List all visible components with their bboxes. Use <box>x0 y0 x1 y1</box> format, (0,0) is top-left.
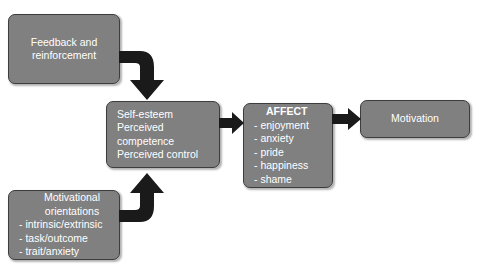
box-affect: AFFECT - enjoyment - anxiety - pride - h… <box>243 103 333 188</box>
arrow-feedback-to-self-esteem <box>119 47 179 103</box>
box-feedback-text: Feedback and reinforcement <box>3 36 125 63</box>
arrow-motivational-to-self-esteem <box>119 172 179 228</box>
box-affect-item-3: - pride <box>254 146 342 160</box>
box-affect-item-5: - shame <box>254 173 342 187</box>
box-motivational-orientations: Motivational orientations - intrinsic/ex… <box>8 190 120 260</box>
box-self-esteem-line-2: Perceived <box>117 121 229 135</box>
box-feedback-line-2: reinforcement <box>9 49 119 63</box>
box-self-esteem-line-3: competence <box>117 135 229 149</box>
box-feedback-line-1: Feedback and <box>9 36 119 50</box>
box-motivational-item-3: - trait/anxiety <box>17 245 127 259</box>
box-affect-text: AFFECT - enjoyment - anxiety - pride - h… <box>244 105 342 186</box>
arrow-self-esteem-to-affect <box>219 112 245 134</box>
box-affect-heading: AFFECT <box>254 105 342 119</box>
box-motivation: Motivation <box>360 100 470 138</box>
arrow-affect-to-motivation <box>332 108 362 130</box>
box-affect-item-4: - happiness <box>254 159 342 173</box>
box-motivational-text: Motivational orientations - intrinsic/ex… <box>9 191 135 259</box>
box-motivational-item-1: - intrinsic/extrinsic <box>17 218 127 232</box>
box-motivational-item-2: - task/outcome <box>17 232 127 246</box>
box-self-esteem: Self-esteem Perceived competence Perceiv… <box>106 101 220 168</box>
diagram-canvas: Feedback and reinforcement Motivational … <box>0 0 482 274</box>
box-self-esteem-text: Self-esteem Perceived competence Perceiv… <box>107 108 229 162</box>
box-motivation-text: Motivation <box>361 112 469 126</box>
box-motivational-heading-1: Motivational <box>17 191 127 205</box>
box-affect-item-2: - anxiety <box>254 132 342 146</box>
box-self-esteem-line-1: Self-esteem <box>117 108 229 122</box>
box-self-esteem-line-4: Perceived control <box>117 148 229 162</box>
box-feedback-and-reinforcement: Feedback and reinforcement <box>8 14 120 84</box>
box-motivational-heading-2: orientations <box>17 205 127 219</box>
box-affect-item-1: - enjoyment <box>254 119 342 133</box>
